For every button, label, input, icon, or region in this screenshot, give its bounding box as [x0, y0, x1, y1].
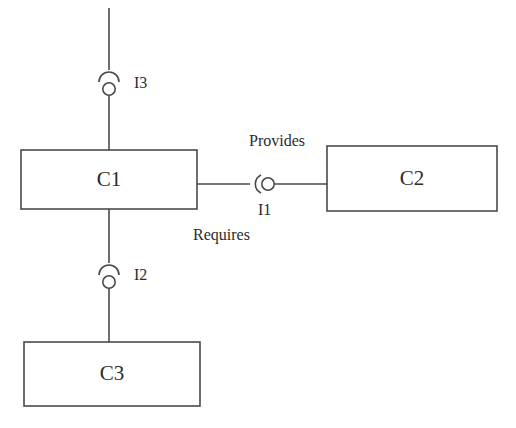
component-diagram-canvas: C1 C2 C3 I3 I1 I2 Provides — [0, 0, 516, 428]
component-c2-label: C2 — [400, 166, 425, 190]
interface-i3-socket-icon — [99, 72, 119, 82]
interface-i1[interactable]: I1 — [255, 175, 274, 218]
interface-i2[interactable]: I2 — [99, 265, 147, 288]
component-c3-label: C3 — [100, 361, 125, 385]
interface-i3-label: I3 — [134, 74, 147, 91]
annotation-requires: Requires — [193, 226, 250, 244]
component-c1[interactable]: C1 — [21, 150, 197, 209]
interface-i2-ball-icon — [103, 276, 115, 288]
annotation-provides: Provides — [249, 132, 305, 149]
component-c1-label: C1 — [97, 167, 122, 191]
diagram-svg: C1 C2 C3 I3 I1 I2 Provides — [0, 0, 516, 428]
interface-i1-ball-icon — [262, 178, 274, 190]
interface-i2-socket-icon — [99, 265, 119, 275]
interface-i1-socket-icon — [255, 175, 261, 193]
interface-i3-ball-icon — [103, 83, 115, 95]
interface-i3[interactable]: I3 — [99, 72, 147, 95]
component-c2[interactable]: C2 — [327, 146, 497, 211]
interface-i2-label: I2 — [134, 266, 147, 283]
interface-i1-label: I1 — [258, 201, 271, 218]
component-c3[interactable]: C3 — [24, 342, 200, 406]
